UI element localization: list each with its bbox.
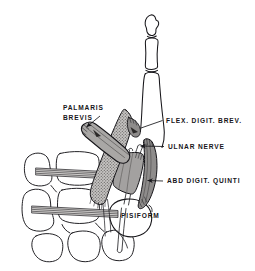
bone-gap-arc-3	[62, 225, 70, 234]
label-pisiform: PISIFORM	[121, 212, 160, 219]
carpal-bone-bottom-mid	[68, 231, 100, 262]
leader-ulnar-nerve	[141, 146, 165, 147]
label-palmaris-brevis-line2: BREVIS	[63, 114, 93, 121]
anatomy-illustration: PALMARIS BREVIS FLEX. DIGIT. BREV. ULNAR…	[0, 0, 255, 271]
proximal-phalanx-right	[145, 72, 164, 147]
proximal-phalanx-left	[140, 74, 145, 132]
dip-joint	[147, 36, 156, 38]
carpal-bone-upper-mid	[56, 152, 99, 186]
label-flex-digit-brev: FLEX. DIGIT. BREV.	[166, 117, 242, 124]
label-abd-digit-quinti: ABD DIGIT. QUINTI	[167, 177, 240, 185]
leader-abd-digit-quinti	[148, 181, 164, 182]
bone-gap-arc-4	[96, 223, 105, 232]
leader-flex-digit-brev	[141, 121, 163, 129]
distal-phalanx	[145, 15, 159, 36]
nerve-cut-end	[117, 250, 122, 253]
label-ulnar-nerve: ULNAR NERVE	[168, 143, 225, 150]
middle-phalanx	[145, 38, 158, 69]
anatomy-figure: PALMARIS BREVIS FLEX. DIGIT. BREV. ULNAR…	[0, 0, 255, 271]
bone-gap-arc-1	[51, 186, 57, 193]
carpal-bone-bottom-left	[32, 234, 63, 262]
label-palmaris-brevis-line1: PALMARIS	[63, 104, 104, 111]
little-finger-phalanges	[140, 15, 164, 148]
